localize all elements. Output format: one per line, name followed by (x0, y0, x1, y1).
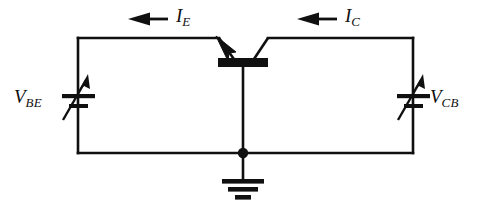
current-arrows (128, 13, 337, 26)
label-collector-base-voltage-symbol: V (430, 86, 442, 107)
label-emitter-current: IE (176, 6, 191, 28)
label-emitter-current-subscript: E (182, 14, 190, 29)
circuit-diagram-canvas: IE IC VBE VCB (0, 0, 500, 209)
label-base-emitter-voltage-symbol: V (14, 86, 26, 107)
junction-dot (238, 148, 248, 158)
collector-current-arrowhead-icon (297, 13, 319, 26)
bjt-transistor (216, 36, 268, 67)
ground-symbol (222, 179, 264, 200)
label-base-emitter-voltage-subscript: BE (26, 95, 42, 110)
circuit-schematic (0, 0, 500, 209)
ground-bar-3 (235, 195, 251, 200)
label-collector-base-voltage: VCB (430, 87, 459, 109)
label-collector-current: IC (345, 6, 360, 28)
label-base-emitter-voltage: VBE (14, 87, 42, 109)
vbe-variability-arrowhead-icon (79, 74, 90, 90)
label-collector-current-subscript: C (351, 14, 360, 29)
transistor-base-bar (218, 58, 268, 67)
vcb-variability-arrowhead-icon (414, 74, 425, 90)
ground-bar-1 (222, 179, 264, 184)
label-collector-base-voltage-subscript: CB (442, 95, 459, 110)
emitter-current-arrowhead-icon (128, 13, 150, 26)
ground-bar-2 (228, 187, 258, 192)
